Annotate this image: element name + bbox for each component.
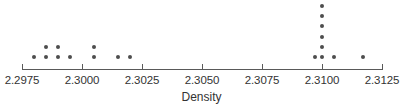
x-tick-label: 2.2975 [5, 74, 40, 87]
x-tick [22, 64, 23, 70]
x-tick-label: 2.3075 [245, 74, 280, 87]
x-tick [322, 64, 323, 70]
dotplot-chart: 2.29752.30002.30252.30502.30752.31002.31… [0, 0, 403, 107]
x-tick [262, 64, 263, 70]
x-tick [202, 64, 203, 70]
x-tick-label: 2.3125 [365, 74, 400, 87]
x-tick [382, 64, 383, 70]
x-tick-label: 2.3025 [125, 74, 160, 87]
x-tick-label: 2.3100 [305, 74, 340, 87]
x-axis-title: Density [0, 90, 403, 104]
x-tick-label: 2.3050 [185, 74, 220, 87]
x-tick-label: 2.3000 [65, 74, 100, 87]
x-tick [142, 64, 143, 70]
x-tick [82, 64, 83, 70]
